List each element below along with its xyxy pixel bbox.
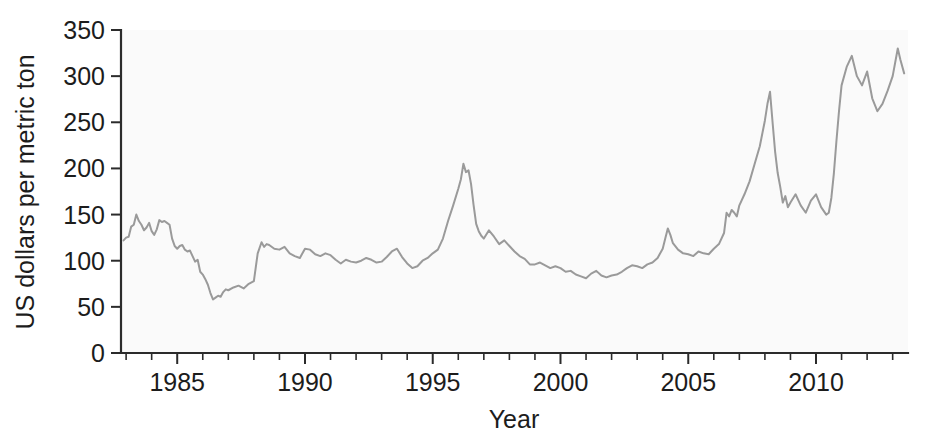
- y-axis-title: US dollars per metric ton: [11, 54, 39, 329]
- y-tick-label: 200: [63, 154, 105, 182]
- line-chart-svg: 050100150200250300350 198519901995200020…: [0, 0, 946, 440]
- x-axis-ticks: [177, 353, 816, 364]
- y-axis-tick-labels: 050100150200250300350: [63, 16, 105, 367]
- y-axis-ticks: [111, 30, 121, 353]
- y-tick-label: 350: [63, 16, 105, 44]
- x-tick-label: 2005: [660, 368, 716, 396]
- x-axis-tick-labels: 198519901995200020052010: [149, 368, 843, 396]
- x-axis-title: Year: [489, 405, 540, 433]
- x-tick-label: 2010: [788, 368, 844, 396]
- x-tick-label: 1995: [405, 368, 461, 396]
- y-tick-label: 250: [63, 108, 105, 136]
- x-tick-label: 1990: [277, 368, 333, 396]
- y-tick-label: 100: [63, 247, 105, 275]
- y-tick-label: 300: [63, 62, 105, 90]
- y-tick-label: 0: [91, 339, 105, 367]
- chart-figure: 050100150200250300350 198519901995200020…: [0, 0, 946, 440]
- y-tick-label: 150: [63, 201, 105, 229]
- x-tick-label: 1985: [149, 368, 205, 396]
- y-tick-label: 50: [77, 293, 105, 321]
- x-tick-label: 2000: [533, 368, 589, 396]
- plot-background: [121, 30, 908, 353]
